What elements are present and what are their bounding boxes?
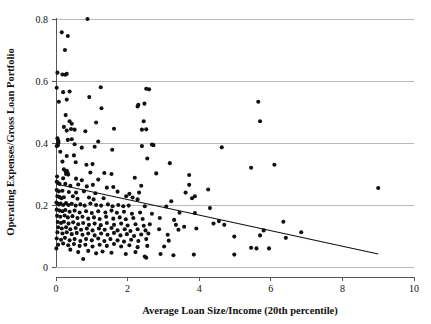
data-point <box>258 233 262 237</box>
data-point <box>119 244 123 248</box>
data-point <box>123 227 127 231</box>
data-point <box>85 227 89 231</box>
data-point <box>55 236 59 240</box>
x-tick-label: 0 <box>54 283 59 294</box>
y-tick-label: 0.4 <box>36 138 49 149</box>
data-point <box>57 189 61 193</box>
data-point <box>187 183 191 187</box>
data-point <box>83 129 87 133</box>
data-point <box>110 148 114 152</box>
data-point <box>158 216 162 220</box>
data-point <box>145 244 149 248</box>
data-point <box>131 196 135 200</box>
data-point <box>187 173 191 177</box>
data-point <box>376 186 380 190</box>
data-point <box>96 209 100 213</box>
data-point <box>60 227 64 231</box>
data-point <box>108 237 112 241</box>
data-point <box>94 120 98 124</box>
data-point <box>139 184 143 188</box>
data-point <box>254 246 258 250</box>
data-point <box>76 222 80 226</box>
data-point <box>109 251 113 255</box>
data-point <box>111 217 115 221</box>
data-point <box>102 239 106 243</box>
data-point <box>66 215 70 219</box>
data-point <box>162 244 166 248</box>
data-point <box>182 225 186 229</box>
data-point <box>192 253 196 257</box>
data-point <box>143 228 147 232</box>
data-point <box>127 192 131 196</box>
data-point <box>208 206 212 210</box>
data-point <box>116 203 120 207</box>
y-tick-label: 0.2 <box>36 200 49 211</box>
data-point <box>65 98 69 102</box>
data-point <box>154 171 158 175</box>
y-tick-label: 0 <box>43 262 48 273</box>
data-point <box>84 209 88 213</box>
data-point <box>68 210 72 214</box>
data-point <box>105 244 109 248</box>
y-tick-label: 0.8 <box>36 14 49 25</box>
data-point <box>158 252 162 256</box>
data-point <box>73 237 77 241</box>
data-point <box>66 173 70 177</box>
data-point <box>128 229 132 233</box>
data-point <box>142 224 146 228</box>
data-point <box>148 222 152 226</box>
data-point <box>73 142 77 146</box>
x-tick-label: 10 <box>409 283 419 294</box>
data-point <box>85 17 89 21</box>
data-point <box>194 227 198 231</box>
data-point <box>116 228 120 232</box>
data-point <box>99 231 103 235</box>
data-point <box>281 220 285 224</box>
data-point <box>80 178 84 182</box>
data-point <box>176 228 180 232</box>
data-point <box>127 243 131 247</box>
data-point <box>87 223 91 227</box>
data-point <box>74 226 78 230</box>
data-point <box>267 246 271 250</box>
data-point <box>83 204 87 208</box>
data-point <box>86 217 90 221</box>
data-point <box>220 145 224 149</box>
data-point <box>249 166 253 170</box>
data-point <box>63 236 67 240</box>
data-point <box>73 128 77 132</box>
data-point <box>133 176 137 180</box>
scatter-plot-figure: 0246810 00.20.40.60.8 Average Loan Size/… <box>0 0 431 324</box>
data-point <box>98 243 102 247</box>
data-point <box>232 253 236 257</box>
data-point <box>68 248 72 252</box>
data-point <box>78 244 82 248</box>
data-point <box>66 222 70 226</box>
data-point <box>68 227 72 231</box>
data-point <box>166 233 170 237</box>
data-point <box>141 217 145 221</box>
data-point <box>99 85 103 89</box>
data-point <box>140 128 144 132</box>
data-point <box>92 215 96 219</box>
data-point <box>168 161 172 165</box>
data-point <box>62 195 66 199</box>
data-point <box>68 238 72 242</box>
data-point <box>167 239 171 243</box>
data-point <box>272 163 276 167</box>
data-point <box>90 244 94 248</box>
data-point <box>69 127 73 131</box>
data-point <box>84 237 88 241</box>
data-point <box>63 208 67 212</box>
x-axis-title: Average Loan Size/Income (20th percentil… <box>142 305 338 317</box>
data-point <box>76 182 80 186</box>
data-point <box>100 249 104 253</box>
data-point <box>132 234 136 238</box>
data-point <box>284 236 288 240</box>
data-point <box>55 71 59 75</box>
data-point <box>119 222 123 226</box>
data-point <box>58 150 62 154</box>
x-tick-label: 2 <box>125 283 130 294</box>
data-points <box>54 17 380 261</box>
data-point <box>63 48 67 52</box>
